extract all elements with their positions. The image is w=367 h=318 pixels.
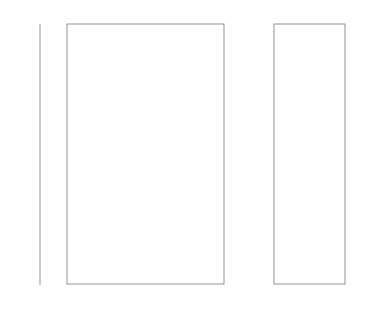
panel-b-frame: [274, 24, 345, 284]
panel-a-frame: [67, 24, 224, 284]
phonon-dispersion-figure: [0, 0, 367, 318]
